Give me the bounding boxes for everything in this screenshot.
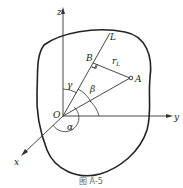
point-A — [129, 76, 133, 80]
diagram: z y x L B A O rL γ β α 图 A-5 — [0, 0, 183, 188]
body-outline — [37, 30, 151, 176]
point-B-label: B — [85, 53, 93, 63]
distance-subscript: L — [115, 60, 120, 67]
y-axis-label: y — [173, 112, 180, 122]
x-axis — [24, 116, 63, 153]
line-L — [63, 33, 110, 116]
beta-label: β — [89, 84, 95, 94]
origin-label: O — [53, 110, 61, 120]
line-L-label: L — [109, 32, 116, 42]
y-axis-arrow-icon — [166, 114, 173, 118]
point-A-label: A — [134, 74, 142, 84]
z-axis-label: z — [56, 7, 62, 17]
x-axis-label: x — [14, 157, 19, 167]
figure-caption: 图 A-5 — [79, 177, 103, 186]
alpha-label: α — [67, 122, 73, 132]
beta-arc — [90, 101, 99, 116]
distance-label: rL — [112, 56, 120, 67]
gamma-label: γ — [67, 80, 73, 90]
